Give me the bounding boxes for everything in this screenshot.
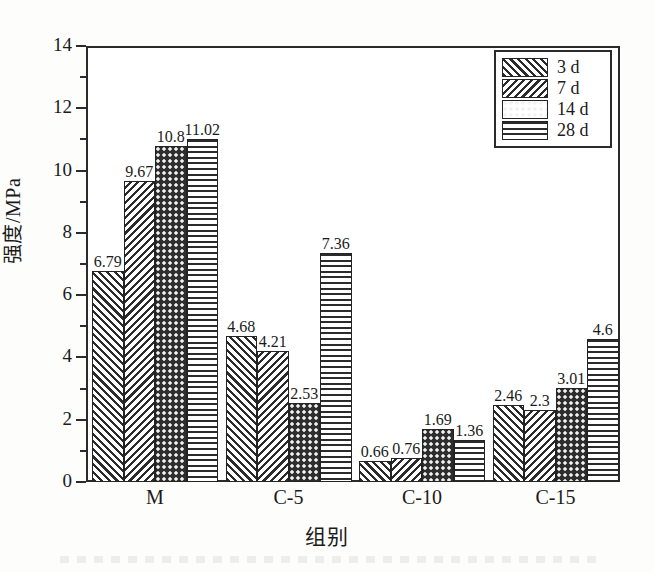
legend-swatch xyxy=(502,100,548,119)
bar xyxy=(587,339,619,482)
y-axis-tick-label: 10 xyxy=(53,159,72,181)
tick-mark xyxy=(76,294,86,296)
bar-value-label: 6.79 xyxy=(94,253,122,270)
tick-mark xyxy=(76,232,86,234)
bar-value-label: 2.53 xyxy=(290,385,318,402)
legend: 3 d7 d14 d28 d xyxy=(494,50,612,148)
bar-value-label: 7.36 xyxy=(322,235,350,252)
bar-value-label: 3.01 xyxy=(557,370,585,387)
bar xyxy=(289,403,321,482)
y-axis-tick-label: 2 xyxy=(63,408,73,430)
bar-value-label: 0.66 xyxy=(361,443,389,460)
y-axis: 02468101214 xyxy=(0,46,86,482)
legend-label: 28 d xyxy=(557,121,589,140)
legend-item: 14 d xyxy=(502,99,604,120)
bar xyxy=(422,429,454,482)
bar xyxy=(359,461,391,482)
y-axis-tick-label: 0 xyxy=(63,470,73,492)
bar xyxy=(124,181,156,482)
y-axis-tick-label: 8 xyxy=(63,221,73,243)
tick-mark xyxy=(76,107,86,109)
bar xyxy=(556,388,588,482)
bar xyxy=(187,139,219,482)
tick-mark xyxy=(76,481,86,483)
x-axis: MC-5C-10C-15 xyxy=(86,486,620,518)
bar xyxy=(320,253,352,482)
y-axis-tick-label: 6 xyxy=(63,283,73,305)
tick-mark xyxy=(76,419,86,421)
legend-item: 7 d xyxy=(502,78,604,99)
legend-swatch xyxy=(502,79,548,98)
bar xyxy=(524,410,556,482)
bar xyxy=(391,458,423,482)
bar-value-label: 11.02 xyxy=(185,121,220,138)
y-axis-tick-label: 14 xyxy=(53,34,72,56)
bar-value-label: 1.69 xyxy=(424,411,452,428)
legend-label: 3 d xyxy=(557,58,580,77)
y-axis-title: 强度/MPa xyxy=(0,178,26,264)
bar-value-label: 9.67 xyxy=(125,163,153,180)
x-axis-title: 组别 xyxy=(0,520,654,550)
tick-mark xyxy=(76,356,86,358)
bar xyxy=(454,440,486,482)
y-axis-tick-label: 12 xyxy=(53,96,72,118)
legend-item: 28 d xyxy=(502,120,604,141)
bar xyxy=(257,351,289,482)
legend-swatch xyxy=(502,58,548,77)
x-axis-tick-label: C-5 xyxy=(274,486,304,509)
bar xyxy=(226,336,258,482)
bar-value-label: 1.36 xyxy=(455,422,483,439)
bar-value-label: 0.76 xyxy=(392,440,420,457)
bar-value-label: 4.68 xyxy=(227,318,255,335)
x-axis-tick-label: M xyxy=(146,486,164,509)
x-axis-tick-label: C-10 xyxy=(402,486,442,509)
bar-value-label: 10.8 xyxy=(157,128,185,145)
bar-chart: 02468101214 强度/MPa 6.799.6710.811.024.68… xyxy=(0,0,654,572)
legend-swatch xyxy=(502,121,548,140)
bar xyxy=(155,146,187,482)
bar-value-label: 4.6 xyxy=(593,321,613,338)
bar-value-label: 4.21 xyxy=(259,333,287,350)
legend-label: 7 d xyxy=(557,79,580,98)
legend-item: 3 d xyxy=(502,57,604,78)
bar xyxy=(92,271,124,482)
tick-mark xyxy=(76,170,86,172)
bar-value-label: 2.3 xyxy=(530,392,550,409)
bar-value-label: 2.46 xyxy=(494,387,522,404)
x-axis-tick-label: C-15 xyxy=(536,486,576,509)
scan-artifact xyxy=(60,556,600,563)
y-axis-tick-label: 4 xyxy=(63,345,73,367)
tick-mark xyxy=(76,45,86,47)
legend-label: 14 d xyxy=(557,100,589,119)
bar xyxy=(493,405,525,482)
